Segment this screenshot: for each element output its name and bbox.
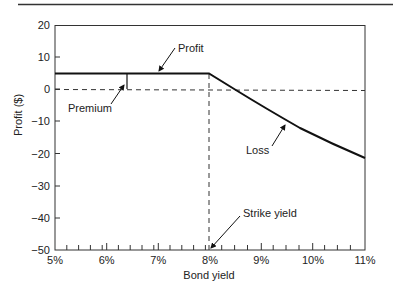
- y-axis-label: Profit ($): [12, 94, 24, 136]
- y-tick-label: −30: [31, 180, 50, 192]
- payoff-line: [55, 74, 365, 159]
- y-tick-label: 10: [38, 51, 50, 63]
- annotation-loss: Loss: [246, 144, 270, 156]
- x-tick-label: 7%: [150, 254, 166, 266]
- y-tick-label: 20: [38, 19, 50, 31]
- x-axis-label: Bond yield: [183, 269, 234, 281]
- x-tick-label: 6%: [99, 254, 115, 266]
- zero-line: [55, 90, 365, 91]
- annotation-premium: Premium: [68, 102, 112, 114]
- premium-arrow: [111, 85, 124, 104]
- profit-arrow: [159, 48, 175, 71]
- x-tick-label: 11%: [354, 254, 375, 266]
- annotation-profit: Profit: [178, 42, 204, 54]
- x-tick-label: 9%: [253, 254, 269, 266]
- x-tick-label: 10%: [302, 254, 324, 266]
- y-axis: [55, 57, 60, 218]
- annotation-strike-yield: Strike yield: [243, 207, 297, 219]
- y-tick-label: 0: [44, 83, 50, 95]
- chart-canvas: 20 10 0 −10 −20 −30 −40 −50 Profit ($): [0, 0, 393, 292]
- x-tick-label: 8%: [202, 254, 218, 266]
- x-tick-label: 5%: [47, 254, 63, 266]
- y-tick-label: −40: [31, 212, 50, 224]
- y-tick-label: −20: [31, 148, 50, 160]
- strike-arrow: [211, 216, 240, 248]
- loss-arrow: [272, 125, 285, 146]
- y-tick-label: −10: [31, 115, 50, 127]
